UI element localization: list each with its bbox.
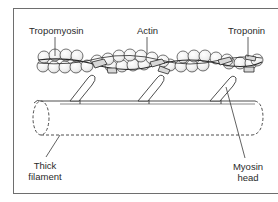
thick-filament (33, 101, 263, 135)
label-thick-filament-line2: filament (24, 171, 66, 182)
label-thick-filament: Thick filament (24, 160, 66, 182)
label-tropomyosin: Tropomyosin (29, 25, 84, 36)
label-myosin-head: Myosin head (228, 161, 268, 183)
label-troponin: Troponin (228, 25, 265, 36)
myosin-heads (34, 75, 236, 104)
label-actin: Actin (137, 25, 158, 36)
thick-filament-leader-line (46, 135, 60, 157)
myosin-head-leader-line (226, 87, 245, 158)
label-thick-filament-line1: Thick (24, 160, 66, 171)
label-myosin-head-line2: head (228, 172, 268, 183)
label-myosin-head-line1: Myosin (228, 161, 268, 172)
